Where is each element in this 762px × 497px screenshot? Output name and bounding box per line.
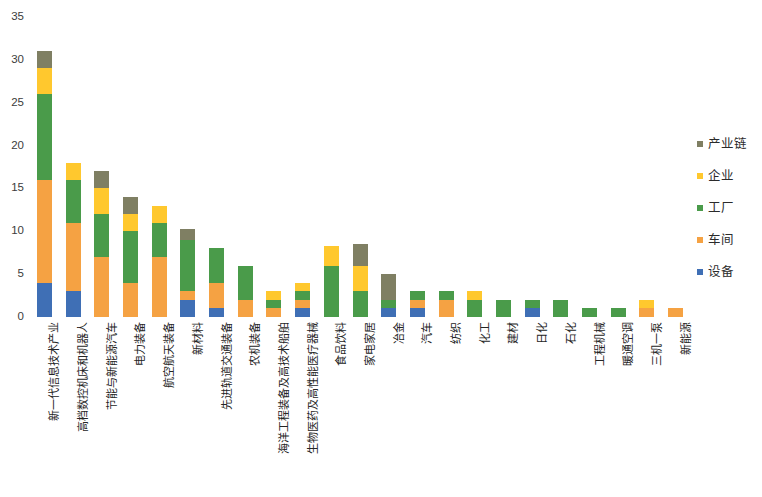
- bar-segment-equipment[interactable]: [209, 308, 224, 317]
- bar-segment-equipment[interactable]: [381, 308, 396, 317]
- x-axis-tick-label: 先进轨道交通装备: [222, 322, 233, 410]
- bar-segment-enterprise[interactable]: [37, 68, 52, 94]
- bar-stack[interactable]: [324, 246, 339, 317]
- bar-segment-workshop[interactable]: [266, 308, 281, 317]
- y-axis: 05101520253035: [0, 0, 30, 497]
- bar-segment-factory[interactable]: [611, 308, 626, 317]
- bar-segment-factory[interactable]: [266, 300, 281, 309]
- bar-segment-enterprise[interactable]: [324, 246, 339, 266]
- bar-stack[interactable]: [525, 300, 540, 317]
- bar-segment-workshop[interactable]: [668, 308, 683, 317]
- bar-segment-chain[interactable]: [353, 244, 368, 265]
- bar-segment-factory[interactable]: [324, 266, 339, 317]
- bar-segment-enterprise[interactable]: [66, 163, 81, 180]
- bar-stack[interactable]: [37, 51, 52, 317]
- bar-segment-chain[interactable]: [37, 51, 52, 68]
- bar-segment-equipment[interactable]: [37, 283, 52, 317]
- bar-stack[interactable]: [467, 291, 482, 317]
- bar-segment-factory[interactable]: [410, 291, 425, 300]
- bar-stack[interactable]: [639, 300, 654, 317]
- bar-stack[interactable]: [410, 291, 425, 317]
- legend-item-factory[interactable]: 工厂: [697, 192, 761, 224]
- bar-segment-factory[interactable]: [553, 300, 568, 317]
- legend-item-equipment[interactable]: 设备: [697, 256, 761, 288]
- bar-segment-factory[interactable]: [381, 300, 396, 309]
- legend-item-chain[interactable]: 产业链: [697, 128, 761, 160]
- bar-segment-chain[interactable]: [94, 171, 109, 188]
- plot-area: [30, 17, 690, 317]
- y-axis-tick-label: 0: [18, 311, 24, 323]
- bar-segment-factory[interactable]: [209, 248, 224, 282]
- bar-segment-enterprise[interactable]: [152, 206, 167, 223]
- bar-segment-workshop[interactable]: [439, 300, 454, 317]
- bar-segment-workshop[interactable]: [295, 300, 310, 309]
- legend-swatch-icon: [697, 237, 703, 243]
- bar-segment-factory[interactable]: [180, 240, 195, 291]
- bar-segment-factory[interactable]: [582, 308, 597, 317]
- x-axis-labels: 新一代信息技术产业高档数控机床和机器人节能与新能源汽车电力装备航空航天装备新材料…: [30, 322, 690, 497]
- bar-segment-factory[interactable]: [66, 180, 81, 223]
- bar-segment-enterprise[interactable]: [94, 188, 109, 214]
- bar-segment-chain[interactable]: [123, 197, 138, 214]
- bar-segment-equipment[interactable]: [180, 300, 195, 317]
- bar-stack[interactable]: [582, 308, 597, 317]
- x-axis-tick-label: 暖通空调: [623, 322, 634, 366]
- bar-segment-factory[interactable]: [123, 231, 138, 282]
- bar-segment-workshop[interactable]: [209, 283, 224, 309]
- bar-stack[interactable]: [94, 171, 109, 317]
- bar-stack[interactable]: [209, 248, 224, 317]
- legend-item-label: 车间: [708, 234, 734, 247]
- bar-segment-factory[interactable]: [152, 223, 167, 257]
- bar-stack[interactable]: [66, 163, 81, 317]
- bar-segment-enterprise[interactable]: [266, 291, 281, 300]
- legend-item-workshop[interactable]: 车间: [697, 224, 761, 256]
- bar-segment-enterprise[interactable]: [353, 266, 368, 292]
- bar-segment-chain[interactable]: [180, 229, 195, 240]
- bar-stack[interactable]: [439, 291, 454, 317]
- bar-segment-equipment[interactable]: [410, 308, 425, 317]
- bar-segment-chain[interactable]: [381, 274, 396, 300]
- bar-segment-factory[interactable]: [467, 300, 482, 317]
- bar-segment-enterprise[interactable]: [295, 283, 310, 292]
- bar-segment-factory[interactable]: [238, 266, 253, 300]
- bar-stack[interactable]: [123, 197, 138, 317]
- x-axis-tick-label: 三机一泵: [652, 322, 663, 366]
- bar-stack[interactable]: [295, 283, 310, 317]
- bar-stack[interactable]: [152, 206, 167, 317]
- bar-stack[interactable]: [238, 266, 253, 317]
- bar-segment-workshop[interactable]: [152, 257, 167, 317]
- legend-item-enterprise[interactable]: 企业: [697, 160, 761, 192]
- bar-segment-workshop[interactable]: [238, 300, 253, 317]
- x-axis-tick-label: 汽车: [422, 322, 433, 344]
- bar-segment-enterprise[interactable]: [467, 291, 482, 300]
- bar-segment-equipment[interactable]: [295, 308, 310, 317]
- bar-segment-factory[interactable]: [37, 94, 52, 180]
- bar-stack[interactable]: [611, 308, 626, 317]
- bar-segment-enterprise[interactable]: [639, 300, 654, 309]
- bar-stack[interactable]: [381, 274, 396, 317]
- bar-stack[interactable]: [553, 300, 568, 317]
- bar-segment-equipment[interactable]: [525, 308, 540, 317]
- bar-segment-workshop[interactable]: [66, 223, 81, 292]
- bar-stack[interactable]: [496, 300, 511, 317]
- bar-stack[interactable]: [266, 291, 281, 317]
- bar-segment-workshop[interactable]: [37, 180, 52, 283]
- bar-stack[interactable]: [353, 244, 368, 317]
- bar-stack[interactable]: [180, 229, 195, 317]
- bar-segment-workshop[interactable]: [94, 257, 109, 317]
- bar-segment-factory[interactable]: [353, 291, 368, 317]
- y-axis-tick-label: 5: [18, 268, 24, 280]
- bar-segment-factory[interactable]: [295, 291, 310, 300]
- y-axis-tick-label: 30: [11, 54, 24, 66]
- bar-segment-equipment[interactable]: [66, 291, 81, 317]
- bar-segment-factory[interactable]: [439, 291, 454, 300]
- bar-segment-factory[interactable]: [94, 214, 109, 257]
- bar-segment-enterprise[interactable]: [123, 214, 138, 231]
- bar-stack[interactable]: [668, 308, 683, 317]
- bar-segment-workshop[interactable]: [123, 283, 138, 317]
- bar-segment-workshop[interactable]: [639, 308, 654, 317]
- bar-segment-factory[interactable]: [525, 300, 540, 309]
- bar-segment-workshop[interactable]: [410, 300, 425, 309]
- bar-segment-workshop[interactable]: [180, 291, 195, 300]
- bar-segment-factory[interactable]: [496, 300, 511, 317]
